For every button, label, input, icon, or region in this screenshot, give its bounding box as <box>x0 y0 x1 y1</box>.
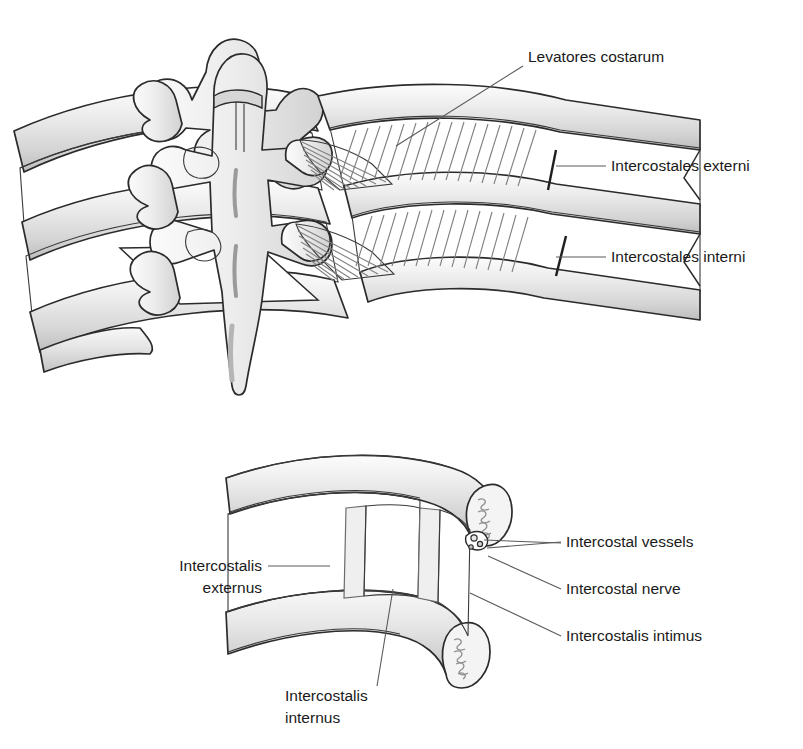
figure-canvas: Levatores costarum Intercostales externi… <box>0 0 803 749</box>
lamina-groove-3 <box>235 246 237 296</box>
muscle-cut-strip-2 <box>418 508 440 602</box>
label-intercostales-interni: Intercostales interni <box>611 248 745 265</box>
neurovascular-bundle <box>466 532 488 551</box>
label-levatores-costarum: Levatores costarum <box>528 48 664 65</box>
label-intercostal-nerve: Intercostal nerve <box>566 580 681 597</box>
label-intercostalis-internus-line2: internus <box>285 709 340 726</box>
label-intercostalis-externus-line1: Intercostalis <box>179 557 262 574</box>
anatomy-illustration: Levatores costarum Intercostales externi… <box>0 0 803 749</box>
label-intercostalis-internus-line1: Intercostalis <box>285 687 368 704</box>
spinous-tip-groove <box>231 326 233 380</box>
muscle-cut-strip-1 <box>344 506 366 598</box>
intercostal-artery <box>477 541 482 546</box>
label-intercostales-externi: Intercostales externi <box>611 157 750 174</box>
intercostal-nerve-dot <box>469 545 473 549</box>
lamina-groove-2 <box>235 170 237 216</box>
label-intercostal-vessels: Intercostal vessels <box>566 533 694 550</box>
intercostal-vein <box>471 535 477 541</box>
label-intercostalis-intimus: Intercostalis intimus <box>566 627 702 644</box>
label-intercostalis-externus-line2: externus <box>203 579 263 596</box>
